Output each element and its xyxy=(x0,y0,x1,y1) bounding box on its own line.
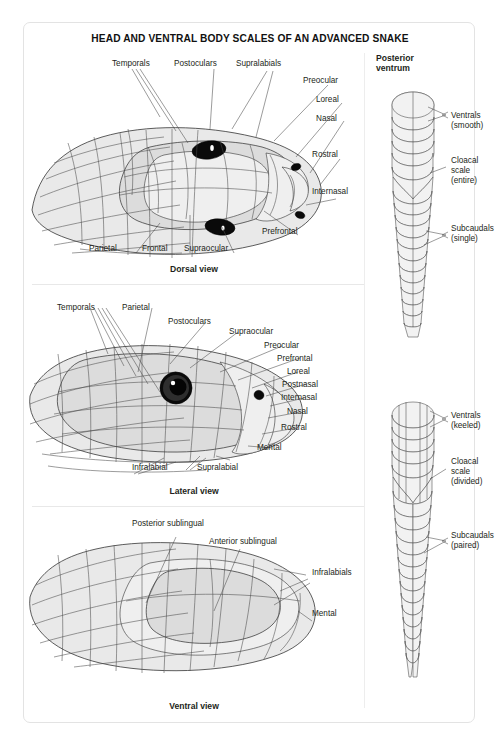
ventral-label-anterior-sublingual: Anterior sublingual xyxy=(209,537,277,547)
dorsal-label-supralabials: Supralabials xyxy=(236,59,281,69)
lateral-label-supralabial: Supralabial xyxy=(197,463,238,473)
lateral-label-prefrontal: Prefrontal xyxy=(277,354,313,364)
dorsal-label-supraocular: Supraocular xyxy=(184,244,228,254)
lateral-label-temporals: Temporals xyxy=(57,303,95,313)
panel-divider-2 xyxy=(32,506,364,507)
dorsal-label-prefrontal: Prefrontal xyxy=(262,227,298,237)
tail-smooth-label-subcaudals: Subcaudals (single) xyxy=(451,224,494,244)
tail-smooth-label-cloacal: Cloacal scale (entire) xyxy=(451,156,478,187)
lateral-label-parietal: Parietal xyxy=(122,303,150,313)
ventral-label-posterior-sublingual: Posterior sublingual xyxy=(132,519,204,529)
dorsal-label-internasal: Internasal xyxy=(312,187,348,197)
column-divider xyxy=(364,53,365,708)
lateral-label-mental: Mental xyxy=(257,443,282,453)
dorsal-label-frontal: Frontal xyxy=(142,244,167,254)
lateral-label-nasal: Nasal xyxy=(287,407,308,417)
ventral-head-drawing xyxy=(24,511,364,696)
figure-title: HEAD AND VENTRAL BODY SCALES OF AN ADVAN… xyxy=(24,33,476,44)
ventral-view-caption: Ventral view xyxy=(124,701,264,711)
dorsal-label-parietal: Parietal xyxy=(89,244,117,254)
dorsal-label-loreal: Loreal xyxy=(316,95,339,105)
dorsal-label-preocular: Preocular xyxy=(303,76,338,86)
lateral-label-postoculars: Postoculars xyxy=(168,317,211,327)
dorsal-label-nasal: Nasal xyxy=(316,114,337,124)
lateral-label-supraocular: Supraocular xyxy=(229,327,273,337)
tail-keeled-label-ventrals: Ventrals (keeled) xyxy=(451,411,481,431)
dorsal-label-postoculars: Postoculars xyxy=(174,59,217,69)
ventral-label-mental: Mental xyxy=(312,609,337,619)
dorsal-label-rostral: Rostral xyxy=(312,150,338,160)
posterior-ventrum-heading: Posterior ventrum xyxy=(376,53,414,73)
lateral-label-postnasal: Postnasal xyxy=(282,380,318,390)
tail-smooth-label-ventrals: Ventrals (smooth) xyxy=(451,111,483,131)
lateral-label-preocular: Preocular xyxy=(264,341,299,351)
tail-keeled-label-subcaudals: Subcaudals (paired) xyxy=(451,531,494,551)
tail-keeled-label-cloacal: Cloacal scale (divided) xyxy=(451,457,482,488)
ventral-label-infralabials: Infralabials xyxy=(312,568,352,578)
figure-frame: HEAD AND VENTRAL BODY SCALES OF AN ADVAN… xyxy=(23,22,475,723)
lateral-label-rostral: Rostral xyxy=(281,423,307,433)
dorsal-view-caption: Dorsal view xyxy=(124,264,264,274)
lateral-view-caption: Lateral view xyxy=(124,486,264,496)
lateral-label-infralabial: Infralabial xyxy=(132,463,168,473)
lateral-label-internasal: Internasal xyxy=(281,393,317,403)
dorsal-label-temporals: Temporals xyxy=(112,59,150,69)
lateral-label-loreal: Loreal xyxy=(287,367,310,377)
